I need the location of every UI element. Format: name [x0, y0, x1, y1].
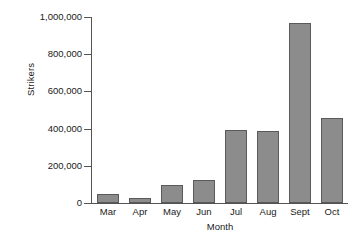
y-axis-tick-labels: 0200,000400,000600,000800,0001,000,000 [0, 0, 82, 243]
x-axis-line [91, 203, 348, 204]
x-axis-tick-labels: MarAprMayJunJulAugSeptOct [92, 206, 348, 220]
y-axis-tick-mark [84, 91, 91, 92]
x-axis-tick-label: Aug [252, 206, 284, 218]
y-axis-tick-label: 200,000 [0, 161, 82, 171]
y-axis-tick-label: 0 [0, 198, 82, 208]
bar [161, 185, 182, 203]
bar [289, 23, 310, 203]
bar [97, 194, 118, 203]
plot-area [92, 17, 348, 203]
y-axis-tick-mark [84, 54, 91, 55]
x-axis-tick-label: Apr [124, 206, 156, 218]
x-axis-title: Month [92, 221, 348, 232]
bar [193, 180, 214, 203]
x-axis-tick-label: May [156, 206, 188, 218]
x-axis-tick-label: Mar [92, 206, 124, 218]
y-axis-tick-label: 1,000,000 [0, 12, 82, 22]
bar [129, 198, 150, 203]
bar [257, 131, 278, 203]
y-axis-tick-label: 600,000 [0, 86, 82, 96]
y-axis-tick-label: 400,000 [0, 124, 82, 134]
y-axis-tick-mark [84, 17, 91, 18]
y-axis-tick-mark [84, 166, 91, 167]
y-axis-tick-mark [84, 129, 91, 130]
bar [225, 130, 246, 203]
bar [321, 118, 342, 203]
x-axis-tick-label: Oct [316, 206, 348, 218]
x-axis-tick-label: Jun [188, 206, 220, 218]
y-axis-tick-label: 800,000 [0, 49, 82, 59]
y-axis-tick-mark [84, 203, 91, 204]
bar-chart: Strikers 0200,000400,000600,000800,0001,… [0, 0, 358, 243]
x-axis-tick-label: Sept [284, 206, 316, 218]
x-axis-tick-label: Jul [220, 206, 252, 218]
